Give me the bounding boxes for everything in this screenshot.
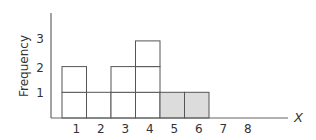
- y-tick-labels: 123: [36, 32, 44, 100]
- histogram-bar-unit-3: [111, 67, 136, 93]
- histogram-chart: X Frequency 123 12345678: [0, 0, 316, 140]
- x-tick-label: 2: [97, 122, 105, 136]
- histogram-bar-unit-3: [111, 92, 136, 118]
- histogram-bar-unit-1: [62, 67, 87, 93]
- x-tick-label: 3: [121, 122, 129, 136]
- y-tick-label: 3: [36, 32, 44, 46]
- y-tick-label: 1: [36, 86, 44, 100]
- x-tick-label: 6: [195, 122, 203, 136]
- histogram-bar-unit-6: [185, 92, 210, 118]
- x-tick-label: 8: [244, 122, 252, 136]
- x-tick-label: 5: [170, 122, 178, 136]
- x-tick-labels: 12345678: [72, 122, 251, 136]
- x-tick-label: 7: [219, 122, 227, 136]
- histogram-bar-unit-1: [62, 92, 87, 118]
- histogram-bar-unit-4: [136, 92, 161, 118]
- bars-group: [62, 41, 209, 118]
- y-axis-label: Frequency: [17, 35, 31, 97]
- x-tick-label: 4: [146, 122, 154, 136]
- histogram-bar-unit-4: [136, 41, 161, 67]
- x-axis-label: X: [293, 110, 304, 125]
- y-tick-label: 2: [36, 61, 44, 75]
- histogram-bar-unit-2: [87, 92, 112, 118]
- histogram-bar-unit-4: [136, 67, 161, 93]
- histogram-bar-unit-5: [160, 92, 185, 118]
- x-tick-label: 1: [72, 122, 80, 136]
